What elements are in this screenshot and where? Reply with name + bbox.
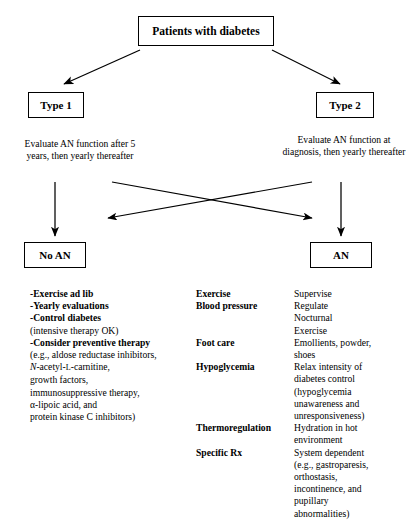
no-an-line: α-lipoic acid, and xyxy=(30,399,195,411)
an-management-term: Hypoglycemia xyxy=(196,361,255,373)
node-patients-with-diabetes: Patients with diabetes xyxy=(138,16,274,46)
edge-cross-to-noan xyxy=(108,182,312,218)
no-an-line: immunosuppressive therapy, xyxy=(30,387,195,399)
node-root-label: Patients with diabetes xyxy=(152,25,259,37)
an-management-row: Specific RxSystem dependent(e.g., gastro… xyxy=(196,447,406,520)
an-management-description-line: Relax intensity of xyxy=(294,361,406,373)
an-management-description-line: System dependent xyxy=(294,447,406,459)
an-management-row: ThermoregulationHydration in hotenvironm… xyxy=(196,422,406,446)
an-management-description-line: (hypoglycemia xyxy=(294,386,406,398)
an-management-description-line: abnormalities) xyxy=(294,508,406,520)
an-management-row: Blood pressureRegulateNocturnalExercise xyxy=(196,300,406,337)
an-management-description-line: unresponsiveness) xyxy=(294,410,406,422)
node-no-an-label: No AN xyxy=(39,249,70,261)
no-an-line: -Consider preventive therapy xyxy=(30,337,195,349)
edge-cross-to-an xyxy=(112,182,312,218)
an-management-description-line: shoes xyxy=(294,349,406,361)
an-management-term: Thermoregulation xyxy=(196,422,271,434)
no-an-line: (intensive therapy OK) xyxy=(30,325,195,337)
an-management-description-line: Supervise xyxy=(294,288,406,300)
an-management-description-line: incontinence, and xyxy=(294,483,406,495)
an-management-description-line: Exercise xyxy=(294,325,406,337)
an-management-description-line: environment xyxy=(294,434,406,446)
an-management-description-line: diabetes control xyxy=(294,373,406,385)
no-an-line: growth factors, xyxy=(30,374,195,386)
an-management-description: Emollients, powder,shoes xyxy=(294,337,406,361)
node-an: AN xyxy=(310,242,372,268)
node-type-2: Type 2 xyxy=(316,92,374,118)
node-type1-label: Type 1 xyxy=(40,99,71,111)
an-management-row: ExerciseSupervise xyxy=(196,288,406,300)
no-an-line: -Exercise ad lib xyxy=(30,288,195,300)
an-management-row: Foot careEmollients, powder,shoes xyxy=(196,337,406,361)
no-an-line: (e.g., aldose reductase inhibitors, xyxy=(30,349,195,361)
no-an-recommendations: -Exercise ad lib-Yearly evaluations-Cont… xyxy=(30,288,195,423)
an-management-term: Foot care xyxy=(196,337,234,349)
an-management-description-line: orthostasis, xyxy=(294,471,406,483)
an-management-description-line: (e.g., gastroparesis, xyxy=(294,459,406,471)
an-management-term: Blood pressure xyxy=(196,300,257,312)
an-management-term: Specific Rx xyxy=(196,447,242,459)
node-type2-label: Type 2 xyxy=(329,99,360,111)
caption-type1-evaluation: Evaluate AN function after 5 years, then… xyxy=(14,138,146,163)
no-an-line: -Control diabetes xyxy=(30,312,195,324)
an-management-term: Exercise xyxy=(196,288,230,300)
edge-root-to-type2 xyxy=(272,50,340,84)
no-an-line: N-acetyl-L-carnitine, xyxy=(30,361,195,374)
no-an-line: -Yearly evaluations xyxy=(30,300,195,312)
an-management-description-line: Hydration in hot xyxy=(294,422,406,434)
node-no-an: No AN xyxy=(24,242,86,268)
no-an-line: protein kinase C inhibitors) xyxy=(30,411,195,423)
an-management-description: Hydration in hotenvironment xyxy=(294,422,406,446)
edge-root-to-type1 xyxy=(64,50,140,84)
an-management-description-line: pupillary xyxy=(294,495,406,507)
an-management-description: RegulateNocturnalExercise xyxy=(294,300,406,337)
caption-type2-evaluation: Evaluate AN function at diagnosis, then … xyxy=(282,134,406,159)
an-management-description-line: Nocturnal xyxy=(294,312,406,324)
an-management-description-line: Regulate xyxy=(294,300,406,312)
an-management-row: HypoglycemiaRelax intensity ofdiabetes c… xyxy=(196,361,406,422)
node-type-1: Type 1 xyxy=(28,92,84,118)
an-management-description-line: Emollients, powder, xyxy=(294,337,406,349)
an-management-description: System dependent(e.g., gastroparesis,ort… xyxy=(294,447,406,520)
an-management-description-line: unawareness and xyxy=(294,398,406,410)
an-management-description: Relax intensity ofdiabetes control(hypog… xyxy=(294,361,406,422)
an-management-description: Supervise xyxy=(294,288,406,300)
node-an-label: AN xyxy=(333,249,349,261)
